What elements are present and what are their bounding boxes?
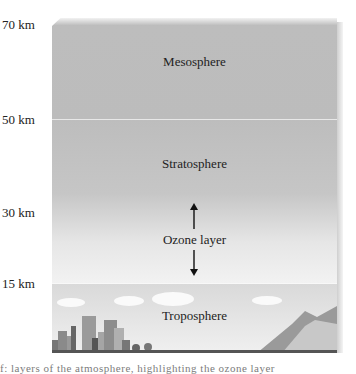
figure-caption: f: layers of the atmosphere, highlightin…	[0, 362, 275, 374]
mountain-icon	[247, 284, 337, 353]
cloud-icon	[114, 296, 144, 306]
stratosphere-band: Stratosphere Ozone layer	[52, 120, 337, 283]
altitude-label-15km: 15 km	[2, 277, 35, 291]
mesosphere-label: Mesosphere	[52, 54, 337, 70]
panel-side-edge	[337, 22, 343, 353]
atmosphere-diagram: Mesosphere Stratosphere Ozone layer Trop…	[52, 18, 337, 353]
troposphere-band: Troposphere	[52, 284, 337, 353]
panel-top-edge	[52, 18, 337, 26]
altitude-label-70km: 70 km	[2, 18, 35, 32]
altitude-label-30km: 30 km	[2, 206, 35, 220]
cloud-icon	[57, 298, 85, 307]
down-arrow-icon	[190, 250, 198, 276]
ozone-layer-label: Ozone layer	[52, 232, 337, 248]
mesosphere-band: Mesosphere	[52, 26, 337, 119]
cloud-icon	[152, 292, 194, 306]
city-skyline-icon	[52, 308, 162, 353]
ground	[52, 350, 337, 353]
altitude-label-50km: 50 km	[2, 113, 35, 127]
up-arrow-icon	[190, 203, 198, 229]
stratosphere-label: Stratosphere	[52, 156, 337, 172]
